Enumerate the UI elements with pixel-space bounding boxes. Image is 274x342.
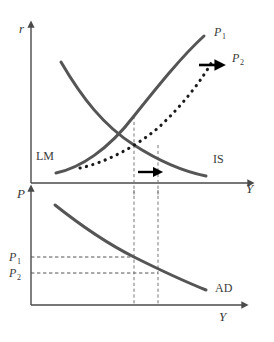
p2-curve-label: P 2 bbox=[231, 51, 244, 67]
bottom-panel-y-axis-label: P bbox=[16, 186, 25, 201]
top-panel-x-axis-label: Y bbox=[246, 181, 255, 196]
is-curve-label: IS bbox=[213, 152, 224, 166]
top-panel-y-axis-label: r bbox=[19, 21, 25, 36]
p1-curve-label-text: P bbox=[213, 25, 222, 39]
ad-curve-label: AD bbox=[215, 281, 233, 295]
p1-curve-label: P 1 bbox=[213, 25, 226, 41]
ad-curve bbox=[55, 205, 206, 290]
p2-tick-label-text: P bbox=[8, 266, 17, 280]
p2-curve-label-text: P bbox=[231, 51, 240, 65]
bottom-panel-x-axis-label: Y bbox=[219, 309, 228, 324]
p2-curve-label-sub: 2 bbox=[240, 58, 244, 67]
lm-curve-p1 bbox=[56, 36, 204, 173]
aggregate-demand-panel: P Y AD P 1 P 2 bbox=[8, 186, 243, 324]
is-lm-panel: r Y LM IS P 1 P 2 bbox=[19, 21, 255, 196]
p2-tick-label-sub: 2 bbox=[17, 273, 21, 282]
p1-curve-label-sub: 1 bbox=[222, 32, 226, 41]
p1-tick-label-text: P bbox=[8, 250, 17, 264]
p2-tick-label: P 2 bbox=[8, 266, 21, 282]
p1-tick-label-sub: 1 bbox=[17, 257, 21, 266]
lm-curve-label: LM bbox=[36, 149, 54, 163]
is-lm-ad-figure: r Y LM IS P 1 P 2 bbox=[0, 0, 274, 342]
p1-tick-label: P 1 bbox=[8, 250, 21, 266]
economics-diagram: r Y LM IS P 1 P 2 bbox=[0, 0, 274, 342]
